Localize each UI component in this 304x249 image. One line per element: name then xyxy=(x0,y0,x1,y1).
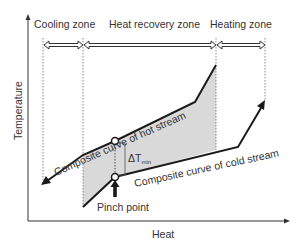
zone-label-cooling: Cooling zone xyxy=(34,18,95,30)
zone-label-heating: Heating zone xyxy=(210,18,272,30)
axes xyxy=(28,17,286,221)
x-axis-label: Heat xyxy=(152,228,174,240)
y-axis-label: Temperature xyxy=(12,81,24,140)
x-axis-arrow-icon xyxy=(284,219,290,224)
pinch-point-label: Pinch point xyxy=(97,201,149,213)
zone-arrows xyxy=(44,41,265,49)
pinch-arrow-icon xyxy=(111,180,120,197)
pinch-point-cold-marker xyxy=(112,174,119,181)
zone-label-heat-recovery: Heat recovery zone xyxy=(109,18,200,30)
y-axis-arrow-icon xyxy=(26,14,31,20)
composite-curve-diagram: Cooling zone Heat recovery zone Heating … xyxy=(0,0,304,249)
